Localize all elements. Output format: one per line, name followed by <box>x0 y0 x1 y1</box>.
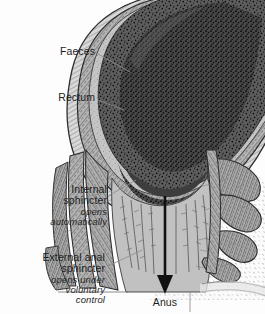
label-faeces: Faeces <box>60 46 95 57</box>
label-anus-text: Anus <box>153 296 177 308</box>
label-internal-sphincter: Internal sphincter opens automatically <box>50 184 107 227</box>
anatomy-figure: Faeces Rectum Internal sphincter opens a… <box>0 0 265 314</box>
label-external-anal-sphincter: External anal sphincter opens under volu… <box>42 252 105 305</box>
label-anus: Anus <box>142 297 188 308</box>
label-rectum: Rectum <box>58 92 95 103</box>
rectum-anus-illustration <box>0 0 265 314</box>
label-internal-sphincter-line2: sphincter <box>50 195 107 206</box>
label-external-sphincter-line2: sphincter <box>42 263 105 274</box>
label-rectum-text: Rectum <box>58 91 95 103</box>
label-external-sphincter-note3: control <box>42 295 105 305</box>
label-faeces-text: Faeces <box>60 45 95 57</box>
label-internal-sphincter-note2: automatically <box>50 217 107 227</box>
